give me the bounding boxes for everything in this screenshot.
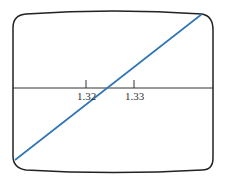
calculator-screen — [0, 0, 226, 178]
tick-label-1-33: 1.33 — [125, 90, 144, 102]
tick-label-1-32: 1.32 — [77, 90, 96, 102]
graph-line — [15, 14, 202, 160]
screen-frame — [13, 11, 213, 173]
